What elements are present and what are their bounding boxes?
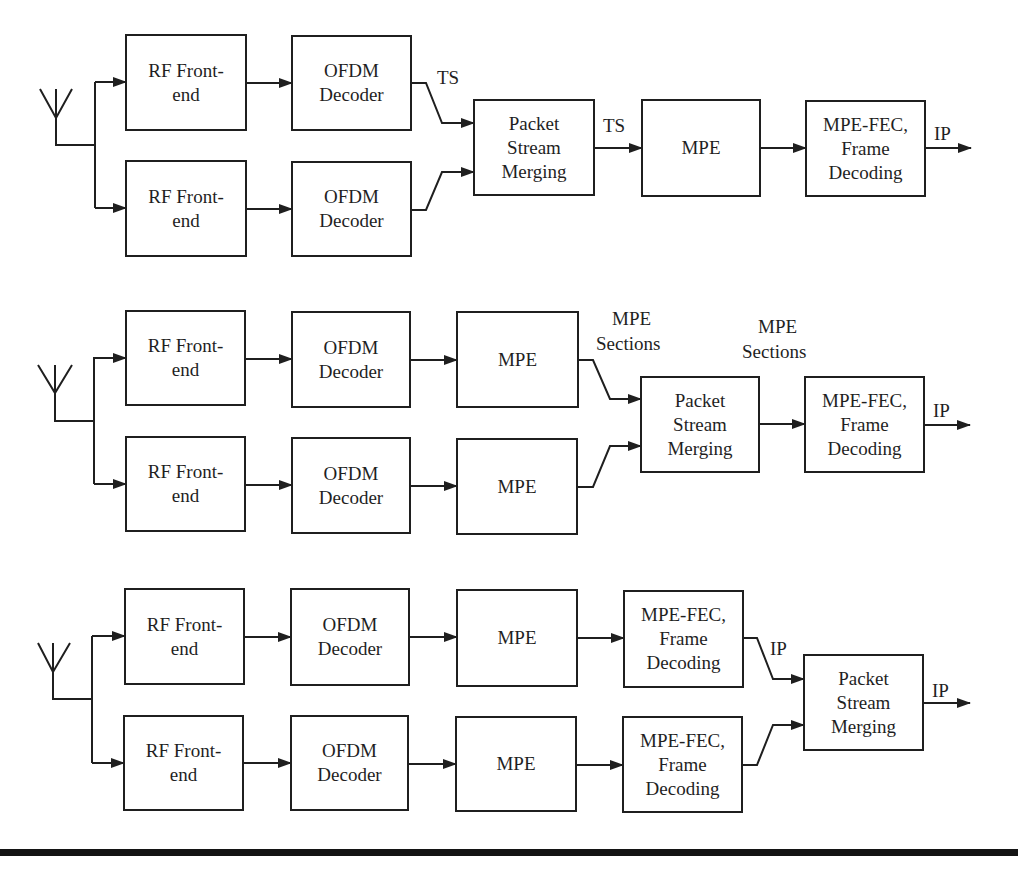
antenna-layer — [38, 82, 95, 763]
signal-label: IP — [934, 123, 951, 144]
block-ofdm-decoder-a: OFDMDecoder — [291, 589, 409, 685]
block-label: Stream — [837, 692, 891, 713]
signal-arrow — [742, 725, 804, 765]
bottom-rule-divider — [0, 849, 1018, 856]
block-label: Frame — [841, 138, 890, 159]
signal-label: TS — [437, 67, 459, 88]
block-label: OFDM — [323, 614, 378, 635]
block-packet-stream-merging: PacketStreamMerging — [641, 377, 759, 472]
block-label: end — [172, 210, 200, 231]
block-label: OFDM — [322, 740, 377, 761]
block-mpe-b: MPE — [457, 439, 577, 534]
signal-label: Sections — [596, 333, 660, 354]
block-mpe-b: MPE — [456, 717, 576, 811]
block-packet-stream-merging: PacketStreamMerging — [804, 655, 923, 750]
block-rf-frontend-b: RF Front-end — [126, 437, 245, 531]
block-mpe-fec-frame-decoding: MPE-FEC,FrameDecoding — [805, 377, 924, 472]
block-label: Decoder — [319, 487, 384, 508]
block-label: Stream — [673, 414, 727, 435]
block-label: Frame — [659, 628, 708, 649]
block-label: MPE — [496, 753, 535, 774]
block-label: RF Front- — [148, 60, 224, 81]
block-label: Decoder — [319, 361, 384, 382]
block-label: RF Front- — [147, 614, 223, 635]
block-ofdm-decoder-a: OFDMDecoder — [292, 312, 410, 407]
block-mpe-fec-frame-decoding-b: MPE-FEC,FrameDecoding — [623, 717, 742, 812]
signal-label: TS — [603, 115, 625, 136]
block-label: Decoding — [646, 778, 720, 799]
block-label: Merging — [501, 161, 567, 182]
block-label: RF Front- — [146, 740, 222, 761]
signal-label: IP — [932, 680, 949, 701]
block-label: Frame — [840, 414, 889, 435]
block-label: MPE — [681, 137, 720, 158]
block-label: MPE-FEC, — [823, 114, 908, 135]
block-label: OFDM — [324, 463, 379, 484]
block-label: Decoding — [828, 438, 902, 459]
antenna-icon — [38, 357, 94, 484]
block-ofdm-decoder-b: OFDMDecoder — [292, 162, 411, 256]
block-label: Decoder — [319, 210, 384, 231]
block-label: end — [172, 359, 200, 380]
block-mpe-fec-frame-decoding: MPE-FEC,FrameDecoding — [806, 101, 925, 196]
block-rf-frontend-a: RF Front-end — [125, 589, 244, 684]
block-rf-frontend-a: RF Front-end — [126, 311, 245, 405]
signal-label: MPE — [758, 316, 797, 337]
block-rf-frontend-a: RF Front-end — [126, 35, 246, 130]
signal-arrow — [411, 83, 474, 123]
block-label: OFDM — [324, 60, 379, 81]
block-ofdm-decoder-a: OFDMDecoder — [292, 36, 411, 130]
block-ofdm-decoder-b: OFDMDecoder — [292, 438, 410, 533]
signal-arrow — [411, 172, 474, 210]
block-label: Decoder — [317, 764, 382, 785]
block-label: Packet — [838, 668, 889, 689]
signal-arrow — [577, 446, 641, 487]
block-label: OFDM — [324, 337, 379, 358]
block-layer: RF Front-endRF Front-endOFDMDecoderOFDMD… — [124, 35, 925, 812]
block-label: Frame — [658, 754, 707, 775]
block-label: MPE — [498, 349, 537, 370]
block-label: Merging — [831, 716, 897, 737]
block-rf-frontend-b: RF Front-end — [126, 161, 246, 256]
signal-arrow — [578, 360, 641, 399]
block-label: Packet — [509, 113, 560, 134]
block-label: Merging — [667, 438, 733, 459]
block-label: Decoding — [647, 652, 721, 673]
block-label: MPE — [497, 627, 536, 648]
block-label: Stream — [507, 137, 561, 158]
antenna-icon — [38, 636, 92, 763]
block-mpe-fec-frame-decoding-a: MPE-FEC,FrameDecoding — [624, 591, 743, 687]
block-label: end — [172, 84, 200, 105]
block-label: MPE-FEC, — [640, 730, 725, 751]
block-label: MPE-FEC, — [822, 390, 907, 411]
block-label: end — [172, 485, 200, 506]
block-packet-stream-merging: PacketStreamMerging — [474, 100, 594, 195]
block-rf-frontend-b: RF Front-end — [124, 716, 243, 810]
diagram-canvas: RF Front-endRF Front-endOFDMDecoderOFDMD… — [0, 0, 1018, 869]
block-label: RF Front- — [148, 335, 224, 356]
signal-label: IP — [933, 400, 950, 421]
block-label: Packet — [675, 390, 726, 411]
block-label: Decoder — [318, 638, 383, 659]
block-label: Decoder — [319, 84, 384, 105]
block-label: Decoding — [829, 162, 903, 183]
block-ofdm-decoder-b: OFDMDecoder — [291, 716, 408, 810]
block-mpe-a: MPE — [457, 312, 578, 407]
block-label: MPE-FEC, — [641, 604, 726, 625]
block-label: OFDM — [324, 186, 379, 207]
antenna-icon — [40, 82, 95, 208]
signal-label: Sections — [742, 341, 806, 362]
signal-label: MPE — [612, 308, 651, 329]
block-label: end — [171, 638, 199, 659]
block-label: RF Front- — [148, 186, 224, 207]
block-label: end — [170, 764, 198, 785]
block-mpe: MPE — [642, 100, 760, 196]
block-label: MPE — [497, 476, 536, 497]
signal-label: IP — [770, 638, 787, 659]
block-label: RF Front- — [148, 461, 224, 482]
block-mpe-a: MPE — [457, 590, 577, 686]
